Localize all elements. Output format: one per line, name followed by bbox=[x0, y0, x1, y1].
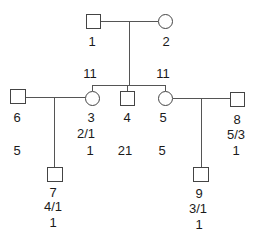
annotation-7-ratio: 4/1 bbox=[38, 200, 68, 213]
label-7: 7 bbox=[38, 186, 68, 199]
individual-5-female-circle bbox=[158, 91, 173, 106]
individual-6-male-square bbox=[10, 89, 26, 104]
label-2: 2 bbox=[151, 35, 181, 48]
individual-3-female-circle bbox=[85, 91, 100, 106]
individual-7-male-square bbox=[47, 167, 63, 182]
sibship-label-left: 11 bbox=[75, 67, 105, 80]
label-6: 6 bbox=[2, 111, 32, 124]
label-9: 9 bbox=[184, 187, 214, 200]
label-4: 4 bbox=[112, 111, 142, 124]
label-1: 1 bbox=[77, 35, 107, 48]
individual-8-male-square bbox=[230, 92, 245, 107]
annotation-9-value: 1 bbox=[184, 218, 214, 231]
sibship-label-right: 11 bbox=[148, 67, 178, 80]
individual-1-male-square bbox=[86, 14, 101, 29]
label-8: 8 bbox=[222, 113, 252, 126]
annotation-8-value: 1 bbox=[221, 144, 251, 157]
annotation-7-value: 1 bbox=[38, 216, 68, 229]
annotation-3-ratio: 2/1 bbox=[71, 127, 101, 140]
individual-9-male-square bbox=[193, 167, 209, 182]
annotation-6-value: 5 bbox=[2, 144, 32, 157]
sibship-bar bbox=[92, 85, 166, 86]
label-5: 5 bbox=[148, 111, 178, 124]
label-3: 3 bbox=[76, 111, 106, 124]
marriage-line-6-3 bbox=[26, 97, 85, 98]
annotation-3-value: 1 bbox=[75, 144, 105, 157]
annotation-8-ratio: 5/3 bbox=[221, 128, 251, 141]
annotation-5-value: 5 bbox=[147, 144, 177, 157]
individual-4-male-square bbox=[120, 91, 135, 106]
individual-2-female-circle bbox=[158, 14, 173, 29]
annotation-4-value: 21 bbox=[110, 144, 140, 157]
descent-line-5-8 bbox=[201, 98, 202, 167]
annotation-9-ratio: 3/1 bbox=[183, 202, 213, 215]
pedigree-chart: 1 2 11 11 6 3 4 5 8 2/1 5/3 5 1 21 5 1 7… bbox=[0, 0, 253, 244]
descent-line-6-3 bbox=[54, 97, 55, 167]
descent-line-1-2 bbox=[129, 21, 130, 85]
